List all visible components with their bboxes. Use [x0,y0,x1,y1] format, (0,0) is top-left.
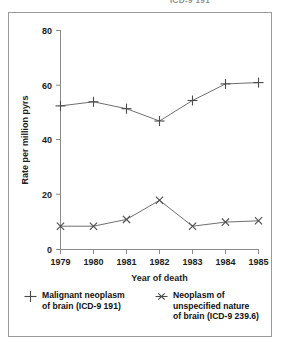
marker-plus-1981 [122,104,132,114]
legend-entry-unspecified: Neoplasm of unspecified nature of brain … [154,290,279,322]
marker-plus-1985 [254,78,264,88]
y-tick-label-60: 60 [42,81,52,91]
y-tick-label-80: 80 [42,26,52,36]
legend-label-malignant: Malignant neoplasm of brain (ICD-9 191) [42,290,125,311]
legend-entry-malignant: Malignant neoplasm of brain (ICD-9 191) [23,290,153,311]
y-axis-ticks [56,31,61,250]
y-tick-label-40: 40 [42,135,52,145]
x-axis-title: Year of death [131,273,188,283]
figure-root: ICD-9 191 80 60 40 20 0 [0,0,282,347]
marker-cross-1981 [123,216,130,223]
plus-marker-icon [23,290,38,303]
marker-plus-1984 [221,79,231,89]
x-tick-label-1985: 1985 [248,257,268,267]
x-tick-label-1984: 1984 [215,257,235,267]
marker-plus-1979 [56,101,66,111]
marker-cross-1982 [156,197,163,204]
x-tick-label-1980: 1980 [83,257,103,267]
y-axis-title: Rate per million pyrs [20,95,30,184]
series-malignant-neoplasm [56,78,264,126]
x-tick-label-1983: 1983 [182,257,202,267]
marker-plus-1983 [188,96,198,106]
series-unspecified-neoplasm [57,197,262,230]
x-tick-label-1981: 1981 [116,257,136,267]
y-tick-label-20: 20 [42,190,52,200]
marker-plus-1980 [89,97,99,107]
x-axis-ticks [61,250,259,255]
legend-label-unspecified: Neoplasm of unspecified nature of brain … [173,290,259,322]
x-tick-label-1979: 1979 [50,257,70,267]
chart-legend: Malignant neoplasm of brain (ICD-9 191) … [8,288,272,336]
x-tick-label-1982: 1982 [149,257,169,267]
cross-marker-icon [154,290,169,303]
marker-plus-1982 [155,116,165,126]
y-tick-label-0: 0 [47,245,52,255]
